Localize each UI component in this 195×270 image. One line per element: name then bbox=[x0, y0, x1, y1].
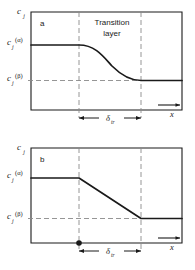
panel-b-y-axis-label-base: c bbox=[17, 142, 21, 152]
panel-b-tick-beta-base: c bbox=[7, 211, 11, 221]
panel-a-tick-alpha-sub: j bbox=[11, 44, 14, 50]
panel-a-y-axis-label-base: c bbox=[17, 6, 21, 16]
figure-background bbox=[0, 0, 195, 270]
panel-a-annotation-line1: Transition bbox=[95, 18, 130, 27]
panel-b-tick-alpha-base: c bbox=[7, 170, 11, 180]
panel-a-y-axis-label-sub: j bbox=[22, 13, 25, 19]
panel-a-tick-beta-sub: j bbox=[11, 80, 14, 86]
panel-a-x-axis-label: x bbox=[169, 109, 174, 119]
panel-a-annotation-line2: layer bbox=[103, 29, 121, 38]
panel-b-tick-beta-sub: j bbox=[11, 218, 14, 224]
panel-a-tick-beta-sup: (β) bbox=[15, 72, 23, 80]
panel-b-letter: b bbox=[40, 155, 45, 164]
panel-a-tick-alpha-base: c bbox=[7, 37, 11, 47]
panel-a-tick-alpha-sup: (α) bbox=[15, 36, 23, 44]
panel-b-tick-beta-sup: (β) bbox=[15, 210, 23, 218]
panel-a-tick-beta-base: c bbox=[7, 73, 11, 83]
panel-b-tick-alpha-sup: (α) bbox=[15, 169, 23, 177]
panel-b-y-axis-label-sub: j bbox=[22, 149, 25, 155]
panel-b-interface-marker-dot bbox=[76, 240, 82, 246]
transition-layer-figure: c j c j (α) c j (β) a Transition layer x bbox=[0, 0, 195, 270]
panel-b-tick-alpha-sub: j bbox=[11, 177, 14, 183]
panel-a-letter: a bbox=[40, 19, 45, 28]
panel-b-x-axis-label: x bbox=[169, 242, 174, 252]
